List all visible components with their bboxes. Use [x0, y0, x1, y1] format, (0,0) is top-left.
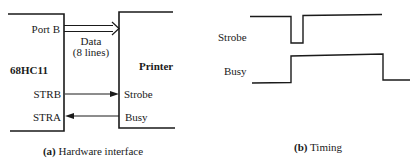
busy-pin-label: Busy: [125, 111, 148, 123]
strb-pin-label: STRB: [33, 88, 61, 100]
port-b-label: Port B: [32, 23, 60, 35]
caption-b-text: Timing: [307, 141, 342, 153]
busy-line-arrow: [65, 113, 119, 119]
hardware-interface-panel: Port B Data (8 lines) 68HC11 Printer STR…: [8, 12, 175, 158]
strobe-signal-label: Strobe: [218, 31, 247, 43]
timing-panel: Strobe Busy (b) Timing: [218, 15, 410, 155]
strobe-waveform: [250, 15, 382, 44]
data-lines-label: (8 lines): [73, 46, 110, 59]
caption-b-prefix: (b): [294, 141, 308, 154]
diagram-canvas: Port B Data (8 lines) 68HC11 Printer STR…: [0, 0, 416, 168]
caption-a: (a) Hardware interface: [43, 145, 143, 158]
mcu-label: 68HC11: [10, 64, 48, 76]
strobe-line-arrow: [65, 91, 119, 97]
busy-signal-label: Busy: [224, 65, 247, 77]
caption-a-prefix: (a): [43, 145, 56, 158]
printer-label: Printer: [139, 60, 173, 72]
busy-waveform: [252, 54, 410, 83]
caption-b: (b) Timing: [294, 141, 343, 154]
stra-pin-label: STRA: [33, 111, 61, 123]
data-bus-arrow: [64, 22, 119, 35]
caption-a-text: Hardware interface: [56, 145, 143, 157]
strobe-pin-label: Strobe: [124, 88, 153, 100]
